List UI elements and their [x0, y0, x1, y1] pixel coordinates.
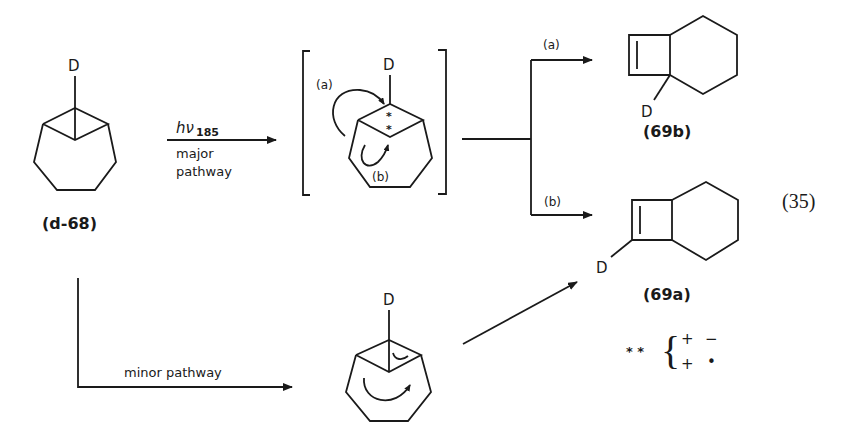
major-label: major: [176, 146, 214, 161]
intermediate-deuterium-label: D: [383, 56, 395, 74]
minor-pathway-arrow: minor pathway: [78, 278, 292, 387]
reactant-label: (d-68): [42, 214, 97, 233]
equation-number: (35): [782, 190, 815, 213]
legend-symbol: * *: [626, 344, 644, 359]
product-69b-deuterium-label: D: [641, 103, 653, 121]
legend-row2-right: •: [707, 353, 716, 371]
reaction-scheme: D (d-68) hν 185 major pathway D * * (a) …: [0, 0, 848, 445]
product-69b-label: (69b): [643, 122, 691, 141]
hv-subscript: 185: [196, 126, 219, 139]
intermediate-structure: D * * (a) (b): [316, 56, 432, 187]
minor-intermediate-structure: D: [346, 291, 431, 421]
branch-a-label: (a): [543, 38, 560, 52]
minor-pathway-label: minor pathway: [124, 365, 222, 380]
radical-mark-2: *: [386, 123, 392, 136]
legend-row1-right: −: [705, 330, 718, 348]
reactant-deuterium-label: D: [68, 57, 80, 75]
radical-mark-1: *: [386, 110, 392, 123]
product-69a-deuterium-label: D: [596, 259, 608, 277]
branch-arrows: (a) (b): [462, 38, 592, 215]
minor-to-69a-arrow: [463, 282, 577, 344]
product-69a-structure: D: [596, 182, 738, 277]
minor-intermediate-deuterium-label: D: [383, 291, 395, 309]
legend-brace: {: [661, 328, 680, 373]
radical-legend: * * { + − + •: [626, 328, 718, 373]
pathway-label: pathway: [176, 164, 232, 179]
reactant-d68-structure: D: [34, 57, 116, 190]
path-a-label: (a): [316, 78, 333, 92]
product-69a-label: (69a): [643, 285, 691, 304]
branch-b-label: (b): [544, 195, 561, 209]
legend-row1-left: +: [681, 330, 694, 348]
major-pathway-arrow: hν 185 major pathway: [167, 119, 276, 179]
hv-symbol: hν: [176, 119, 194, 137]
legend-row2-left: +: [681, 355, 694, 373]
path-b-label: (b): [372, 170, 389, 184]
product-69b-structure: D: [629, 16, 737, 121]
